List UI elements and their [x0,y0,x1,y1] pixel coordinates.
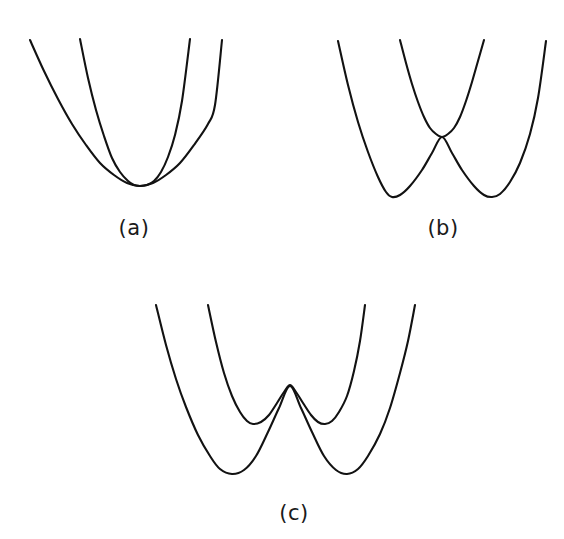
panel-c-label: (c) [279,501,308,525]
figure-canvas: (a) (b) (c) [0,0,564,539]
panel-a-narrow-parabola [80,39,190,186]
figure-container: (a) (b) (c) [0,0,564,539]
panel-b-double-well-lower [338,41,546,197]
panel-a: (a) [30,39,222,240]
panel-b-upper-narrow-parabola [400,40,484,137]
panel-b: (b) [338,40,546,240]
panel-c-inner-double-well [208,305,365,424]
panel-a-wide-parabola [30,40,222,186]
panel-c: (c) [156,305,415,525]
panel-a-label: (a) [119,216,150,240]
panel-b-label: (b) [427,216,458,240]
